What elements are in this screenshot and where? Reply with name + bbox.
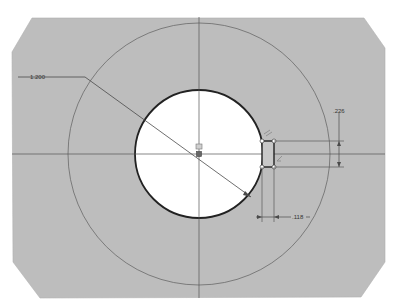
width-dimension-label[interactable]: .118 <box>292 214 304 220</box>
keyway-slot[interactable] <box>262 141 274 167</box>
diameter-dimension-label[interactable]: 1.200 <box>30 74 46 80</box>
keyway-vertex[interactable] <box>260 139 264 143</box>
height-dimension-label[interactable]: .226 <box>333 108 345 114</box>
sketch-canvas[interactable]: 1.200 .226 .118 <box>0 0 397 308</box>
